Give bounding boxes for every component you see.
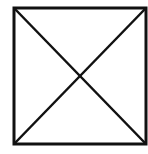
- crossed-square-diagram: [0, 0, 148, 154]
